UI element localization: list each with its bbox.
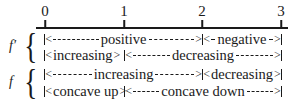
arrow-left-icon: <	[203, 66, 210, 82]
interval-label: concave up	[52, 83, 120, 99]
interval-concave-down: < concave down >	[124, 83, 282, 99]
interval-increasing: < increasing >	[44, 47, 124, 63]
sign-chart-diagram: 0 1 2 3 f′ { < positive > < negative > <…	[0, 0, 300, 109]
dash-line	[269, 39, 273, 40]
arrow-left-icon: <	[45, 66, 52, 82]
tick-label-2: 2	[198, 4, 206, 19]
dash-line	[211, 39, 215, 40]
interval-positive: < positive >	[44, 31, 202, 47]
tick-label-0: 0	[41, 4, 49, 19]
interval-decreasing: < decreasing >	[124, 47, 282, 63]
interval-label: decreasing	[210, 66, 274, 82]
arrow-left-icon: <	[125, 47, 132, 63]
interval-concave-up: < concave up >	[44, 83, 124, 99]
arrow-right-icon: >	[274, 47, 281, 63]
bar-icon	[281, 69, 282, 80]
arrow-right-icon: >	[274, 31, 281, 47]
tick-mark-1	[123, 20, 125, 28]
interval-label: increasing	[52, 47, 114, 63]
arrow-left-icon: <	[125, 83, 132, 99]
dash-line	[247, 91, 273, 92]
f-monotonic-row: < increasing > < decreasing >	[0, 66, 300, 82]
dash-line	[133, 91, 159, 92]
tick-mark-0	[44, 20, 46, 28]
tick-label-1: 1	[120, 4, 128, 19]
arrow-right-icon: >	[274, 83, 281, 99]
arrow-right-icon: >	[114, 47, 121, 63]
interval-label: decreasing	[171, 47, 235, 63]
dash-line	[53, 39, 99, 40]
dash-line	[149, 39, 195, 40]
interval-label: positive	[100, 31, 148, 47]
arrow-left-icon: <	[203, 31, 210, 47]
dash-line	[155, 74, 194, 75]
arrow-left-icon: <	[45, 31, 52, 47]
f-prime-sign-row: < positive > < negative >	[0, 31, 300, 47]
number-line-axis	[36, 27, 288, 29]
bar-icon	[281, 50, 282, 61]
interval-label: negative	[216, 31, 267, 47]
arrow-left-icon: <	[45, 47, 52, 63]
interval-negative: < negative >	[202, 31, 282, 47]
tick-label-3: 3	[277, 4, 285, 19]
interval-label: increasing	[93, 66, 155, 82]
f-concavity-row: < concave up > < concave down >	[0, 83, 300, 99]
arrow-right-icon: >	[195, 31, 202, 47]
tick-mark-2	[201, 20, 203, 28]
dash-line	[133, 55, 170, 56]
arrow-right-icon: >	[274, 66, 281, 82]
interval-increasing: < increasing >	[44, 66, 202, 82]
tick-mark-3	[280, 20, 282, 28]
bar-icon	[281, 86, 282, 97]
dash-line	[53, 74, 92, 75]
f-prime-monotonic-row: < increasing > < decreasing >	[0, 47, 300, 63]
bar-icon	[281, 34, 282, 45]
dash-line	[236, 55, 273, 56]
arrow-right-icon: >	[195, 66, 202, 82]
interval-decreasing: < decreasing >	[202, 66, 282, 82]
arrow-left-icon: <	[45, 83, 52, 99]
interval-label: concave down	[160, 83, 245, 99]
